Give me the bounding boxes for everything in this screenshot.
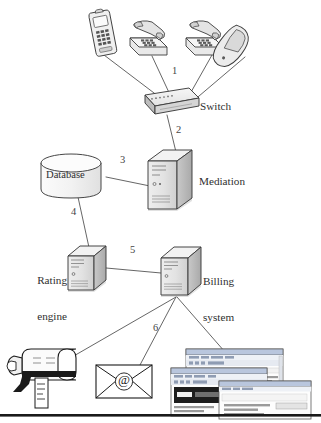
desk-phone-icon-1 [130, 21, 167, 55]
diagram-canvas: Switch Mediation Database Rating engine … [0, 0, 321, 423]
label-billing-system-line1: Billing [203, 275, 234, 287]
mobile-phone-icon [88, 8, 117, 57]
mailbox-icon [7, 349, 76, 408]
label-billing-system-line2: system [203, 311, 234, 323]
browser-windows-icon [171, 349, 311, 419]
connection-number-6: 6 [153, 323, 158, 334]
server-tower-icon-billing [161, 247, 201, 297]
connection-number-5: 5 [130, 245, 135, 256]
link-mobile-to-switch [104, 55, 158, 96]
connection-number-4: 4 [71, 207, 76, 218]
label-rating-engine-line1: Rating [23, 274, 67, 286]
connection-number-3: 3 [120, 155, 125, 166]
label-rating-engine-line2: engine [23, 310, 67, 322]
server-tower-icon-mediation [148, 150, 192, 211]
label-mediation: Mediation [199, 176, 245, 188]
envelope-at-symbol: @ [118, 373, 130, 387]
link-rating-to-billing [106, 268, 161, 273]
connection-number-1: 1 [172, 66, 177, 77]
link-database-to-rating [78, 197, 90, 252]
label-database: Database [46, 169, 85, 180]
server-tower-icon-rating [68, 246, 106, 292]
link-mediation-to-database [106, 177, 150, 186]
connection-number-2: 2 [176, 125, 181, 136]
bottom-divider [0, 414, 321, 417]
link-switch-to-mediation [167, 115, 176, 152]
diagram-illustration [0, 0, 321, 423]
label-switch: Switch [200, 101, 231, 113]
browser-window-front [219, 381, 311, 419]
label-billing-system: Billing system [203, 251, 234, 348]
label-rating-engine: Rating engine [23, 250, 67, 347]
